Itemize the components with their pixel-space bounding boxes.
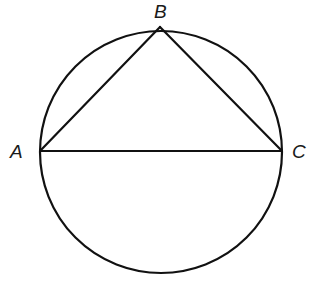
geometry-figure: A B C xyxy=(0,0,314,296)
point-label-b: B xyxy=(154,1,167,22)
point-label-c: C xyxy=(292,141,306,162)
point-label-a: A xyxy=(9,141,23,162)
diagram-canvas: A B C xyxy=(0,0,314,296)
